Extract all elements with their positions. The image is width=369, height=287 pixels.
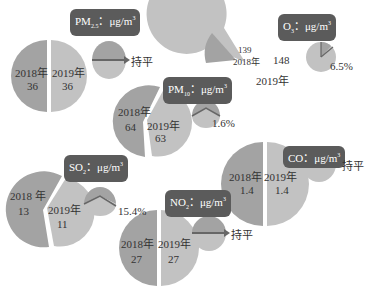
so2-change-indicator (84, 187, 116, 216)
pm10-2018-value: 64 (125, 121, 136, 133)
so2-2019-year: 2019年 (48, 201, 81, 217)
o3-label: O3：μg/m3 (278, 14, 336, 41)
pm25-2019-value: 36 (62, 80, 73, 92)
co-label: CO：μg/m3 (283, 146, 345, 168)
co-2019-year: 2019年 (264, 168, 297, 184)
no2-2019-year: 2019年 (158, 235, 191, 251)
co-2018-year: 2018年 (229, 168, 262, 184)
so2-2019-value: 11 (57, 218, 68, 230)
no2-2018-value: 27 (131, 253, 142, 265)
no2-change: 持平 (231, 226, 253, 242)
pm25-2019-year: 2019年 (52, 64, 85, 80)
o3-2019-year: 2019年 (256, 72, 289, 88)
pm25-2018-value: 36 (27, 80, 38, 92)
o3-pie (147, 0, 245, 63)
co-2019-value: 1.4 (275, 184, 289, 196)
so2-change: 15.4% (118, 205, 146, 217)
o3-2018-year: 2018年 (233, 55, 260, 68)
so2-2018-value: 13 (18, 205, 29, 217)
o3-2019-value: 148 (273, 54, 290, 66)
pm25-2018-year: 2018年 (15, 64, 48, 80)
no2-change-indicator (192, 216, 230, 251)
o3-change: 6.5% (330, 60, 353, 72)
so2-2018-year: 2018 年 (10, 187, 46, 203)
co-change: 持平 (342, 157, 364, 173)
o3-2018-value: 139 (238, 45, 252, 55)
pm10-label: PM10：μg/m3 (163, 77, 232, 104)
pm10-2019-value: 63 (155, 132, 166, 144)
pm25-label: PM2.5：μg/m3 (70, 9, 140, 36)
no2-2018-year: 2018年 (121, 235, 154, 251)
so2-label: SO2：μg/m3 (64, 155, 128, 182)
pm25-change: 持平 (131, 53, 153, 69)
pm10-change: 1.6% (212, 117, 235, 129)
pm25-change-indicator (92, 41, 130, 79)
pm10-2019-year: 2019年 (147, 117, 180, 133)
no2-2019-value: 27 (168, 253, 179, 265)
co-2018-value: 1.4 (240, 184, 254, 196)
no2-label: NO2：μg/m3 (165, 190, 231, 217)
